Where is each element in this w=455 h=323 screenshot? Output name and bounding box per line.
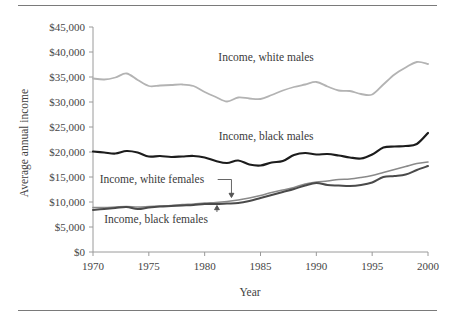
y-axis-tick-group: $0$5,000$10,000$15,000$20,000$25,000$30,…: [49, 21, 93, 258]
black-males-label: Income, black males: [219, 130, 314, 143]
series-line-0: [93, 62, 428, 102]
y-tick-label: $0: [74, 246, 86, 258]
y-tick-label: $30,000: [49, 96, 85, 108]
x-tick-label: 1980: [194, 260, 217, 272]
x-tick-label: 2000: [417, 260, 440, 272]
y-tick-label: $15,000: [49, 171, 85, 183]
white-females-label: Income, white females: [100, 173, 205, 186]
x-axis-title: Year: [239, 286, 260, 298]
leader-arrow-white-females: [229, 193, 234, 197]
y-tick-label: $20,000: [49, 146, 85, 158]
y-tick-label: $5,000: [55, 221, 86, 233]
y-axis-title: Average annual income: [18, 89, 31, 197]
y-tick-label: $25,000: [49, 121, 85, 133]
white-males-label: Income, white males: [218, 51, 314, 64]
income-line-chart: $0$5,000$10,000$15,000$20,000$25,000$30,…: [0, 0, 455, 323]
x-tick-label: 1975: [138, 260, 161, 272]
leader-line-white-females: [218, 180, 232, 195]
black-females-label: Income, black females: [104, 213, 208, 226]
figure-container: $0$5,000$10,000$15,000$20,000$25,000$30,…: [0, 0, 455, 323]
y-tick-label: $40,000: [49, 46, 85, 58]
x-tick-label: 1995: [361, 260, 384, 272]
y-tick-label: $45,000: [49, 21, 85, 33]
x-tick-label: 1985: [250, 260, 273, 272]
annotation-group: Income, white malesIncome, black malesIn…: [100, 51, 315, 226]
x-axis-tick-group: 1970197519801985199019952000: [82, 252, 440, 272]
x-tick-label: 1970: [82, 260, 105, 272]
y-tick-label: $10,000: [49, 196, 85, 208]
x-tick-label: 1990: [305, 260, 328, 272]
leader-arrow-black-females: [215, 206, 220, 210]
y-tick-label: $35,000: [49, 71, 85, 83]
